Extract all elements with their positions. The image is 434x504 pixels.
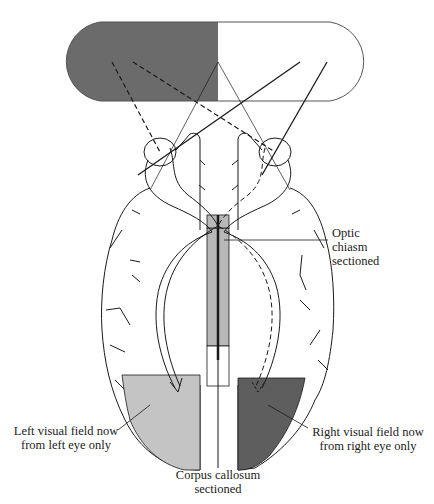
optic-chiasm-label: Optic chiasm sectioned [332, 226, 379, 268]
corpus-callosum-label: Corpus callosum sectioned [168, 468, 268, 496]
visual-field-right-half [218, 22, 364, 101]
right-visual-field-label: Right visual field now from right eye on… [306, 425, 430, 453]
visual-field-left-half [66, 22, 218, 101]
left-visual-field-label: Left visual field now from left eye only [10, 424, 122, 452]
visual-field [66, 22, 363, 101]
left-visual-cortex [122, 375, 200, 470]
